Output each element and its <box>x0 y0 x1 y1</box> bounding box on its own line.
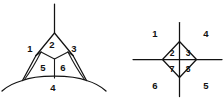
left-region-label-6: 6 <box>60 62 65 73</box>
left-inner-chord-lower-left <box>25 52 42 80</box>
right-region-label-3: 3 <box>186 48 191 58</box>
right-region-label-7: 7 <box>170 64 175 74</box>
right-region-label-8: 8 <box>186 64 191 74</box>
left-region-label-5: 5 <box>40 62 46 73</box>
left-region-label-2: 2 <box>49 39 54 50</box>
right-region-label-4: 4 <box>203 28 209 39</box>
right-region-label-2: 2 <box>170 48 175 58</box>
left-panel-group: 1 2 3 5 6 4 <box>2 4 106 93</box>
right-region-label-6: 6 <box>152 80 157 91</box>
right-panel-group: 1 4 2 3 7 8 6 5 <box>133 23 222 97</box>
left-lower-left-arm <box>2 81 23 92</box>
left-region-label-1: 1 <box>27 43 33 54</box>
left-lower-right-arm <box>87 81 107 92</box>
left-inner-chord-upper-right <box>55 52 69 59</box>
left-inner-chord-lower-right <box>68 52 85 80</box>
diagram-svg: 1 2 3 5 6 4 1 4 2 3 7 8 6 5 <box>0 0 223 108</box>
left-inner-chord-upper-left <box>41 52 55 59</box>
right-region-label-5: 5 <box>203 80 209 91</box>
left-region-label-4: 4 <box>50 82 56 93</box>
left-region-label-3: 3 <box>71 43 76 54</box>
left-outer-edge-upper-right <box>55 33 74 56</box>
left-outer-edge-lower-right <box>73 56 87 81</box>
right-region-label-1: 1 <box>152 28 158 39</box>
figure-container: 1 2 3 5 6 4 1 4 2 3 7 8 6 5 <box>0 0 223 108</box>
